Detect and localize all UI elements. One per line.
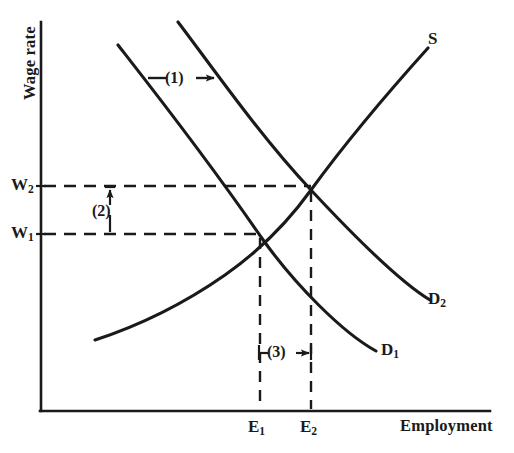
tick-label-w1-sub: 1 [28,231,34,244]
annotation-label-3: (3) [267,344,286,360]
curve-label-d1-text: D [381,340,393,359]
curve-label-supply-text: S [428,29,437,48]
curve-label-supply: S [428,30,437,50]
demand-curve-shifted [178,22,430,300]
tick-label-e1-sub: 1 [259,425,265,438]
guide-lines [44,186,311,409]
tick-label-e2-text: E [300,417,311,436]
tick-label-w2-text: W [11,175,28,194]
economics-supply-demand-figure: Wage rate Employment W2 W1 E1 E2 S D1 D2… [0,0,514,453]
curve-label-d1-sub: 1 [393,348,399,361]
tick-label-w1-text: W [11,223,28,242]
annotation-label-1: (1) [165,70,184,86]
curve-label-demand-shifted: D2 [428,290,446,310]
y-axis-title: Wage rate [22,26,39,100]
demand-curve-initial [118,45,376,351]
tick-label-e2: E2 [300,418,317,438]
tick-label-w2-sub: 2 [28,183,34,196]
x-axis-title: Employment [400,418,493,435]
supply-curve [95,48,428,340]
tick-label-w2: W2 [11,176,34,196]
tick-label-e1-text: E [248,417,259,436]
curve-label-d2-sub: 2 [440,297,446,310]
annotation-label-2: (2) [92,203,111,219]
tick-label-e2-sub: 2 [311,425,317,438]
curve-label-d2-text: D [428,289,440,308]
tick-label-e1: E1 [248,418,265,438]
diagram-canvas [0,0,514,453]
tick-label-w1: W1 [11,224,34,244]
curve-label-demand-initial: D1 [381,341,399,361]
